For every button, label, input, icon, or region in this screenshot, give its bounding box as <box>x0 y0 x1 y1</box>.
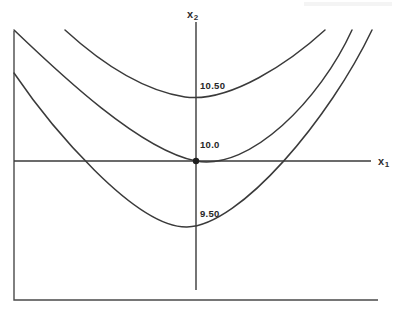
x1-axis-label: x1 <box>378 155 389 167</box>
plot-canvas <box>0 0 398 313</box>
x1-axis-label-base: x <box>378 155 384 167</box>
optimum-point-marker <box>193 158 199 164</box>
contour-plot-figure: x2 x1 10.50 10.0 9.50 <box>0 0 398 313</box>
contour-line-9-50 <box>14 30 372 227</box>
x2-axis-label-subscript: 2 <box>194 13 198 22</box>
contour-label-10-0: 10.0 <box>200 139 220 150</box>
x2-axis-label: x2 <box>187 8 198 20</box>
contour-line-10-50 <box>65 30 325 98</box>
x1-axis-label-subscript: 1 <box>385 160 389 169</box>
contour-label-9-50: 9.50 <box>200 208 220 219</box>
contour-label-10-50: 10.50 <box>200 80 225 91</box>
x2-axis-label-base: x <box>187 8 193 20</box>
